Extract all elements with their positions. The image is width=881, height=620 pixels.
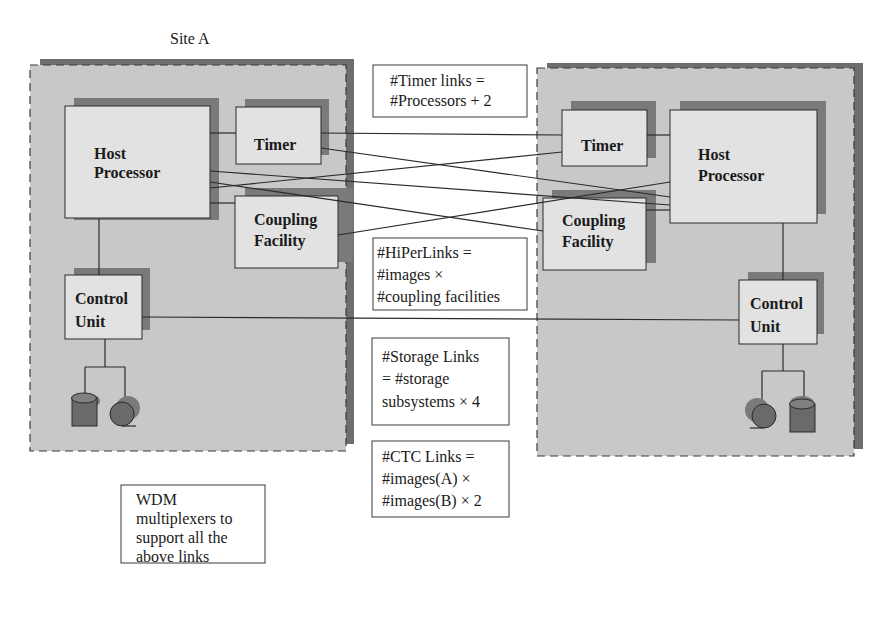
site-b-disk-icon [790,396,816,432]
note-ctc-links: #CTC Links = #images(A) × #images(B) × 2 [372,441,509,517]
svg-text:#Timer links =: #Timer links = [390,72,485,89]
site-a-cu-label-1: Control [75,290,129,307]
svg-text:subsystems × 4: subsystems × 4 [382,393,480,411]
svg-text:#HiPerLinks =: #HiPerLinks = [377,244,472,261]
site-a-cf-label-2: Facility [254,232,306,250]
svg-text:WDM: WDM [136,491,177,508]
site-a-host-label-2: Processor [94,164,160,181]
site-b-timer-label: Timer [581,137,623,154]
svg-text:above links: above links [136,548,209,565]
svg-text:support all the: support all the [136,529,228,547]
site-b-cu-label-2: Unit [750,318,781,335]
site-b-host-label-1: Host [698,146,731,163]
note-timer-links: #Timer links = #Processors + 2 [373,65,527,117]
diagram-canvas: Site A Host Processor Timer Coupling Fac… [0,0,881,620]
site-b-cu-label-1: Control [750,295,804,312]
svg-text:#coupling facilities: #coupling facilities [377,288,500,306]
site-b-cf-label-1: Coupling [562,212,625,230]
site-b-host-label-2: Processor [698,167,764,184]
svg-text:#images(A) ×: #images(A) × [382,470,471,488]
svg-text:multiplexers to: multiplexers to [136,510,232,528]
svg-text:= #storage: = #storage [382,370,449,388]
svg-text:#CTC Links =: #CTC Links = [382,448,475,465]
site-a-cu-label-2: Unit [75,313,106,330]
site-a-host-label-1: Host [94,145,127,162]
site-a-timer-label: Timer [254,136,296,153]
svg-text:#images(B) × 2: #images(B) × 2 [382,492,482,510]
site-b: Site B Host Processor Timer Coupling Fac… [537,63,863,456]
site-a-host-processor[interactable] [65,106,210,218]
timer-to-timer-link [321,133,562,135]
svg-text:#images ×: #images × [377,266,443,284]
site-b-cf-label-2: Facility [562,233,614,251]
site-a-disk-icon [72,393,101,426]
svg-text:#Processors + 2: #Processors + 2 [390,92,491,109]
note-storage-links: #Storage Links = #storage subsystems × 4 [372,338,509,425]
svg-text:#Storage Links: #Storage Links [382,348,479,366]
note-hiperlinks: #HiPerLinks = #images × #coupling facili… [373,238,527,310]
note-wdm: WDM multiplexers to support all the abov… [121,485,265,565]
site-a-cf-label-1: Coupling [254,211,317,229]
site-a-title: Site A [170,30,210,47]
site-a: Site A Host Processor Timer Coupling Fac… [30,30,354,451]
